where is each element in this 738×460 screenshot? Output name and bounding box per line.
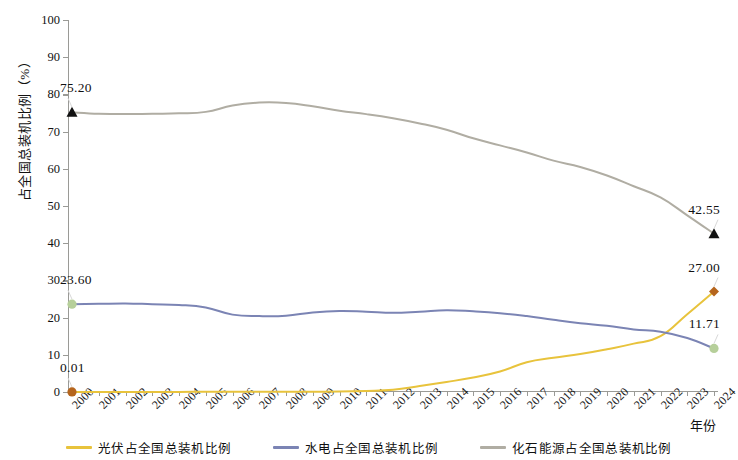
y-tick-label: 20 xyxy=(48,310,61,325)
series-line xyxy=(72,292,714,392)
data-point-label: 27.00 xyxy=(688,260,720,276)
y-tick-label: 80 xyxy=(48,87,61,102)
legend-item[interactable]: 水电占全国总装机比例 xyxy=(273,438,438,457)
y-tick-label: 40 xyxy=(48,236,61,251)
data-point-label: 75.20 xyxy=(60,80,92,96)
y-tick-label: 30 xyxy=(48,273,61,288)
label-leader-line xyxy=(714,334,718,343)
data-point-marker xyxy=(67,300,76,309)
legend-item[interactable]: 化石能源占全国总装机比例 xyxy=(480,438,672,457)
y-tick-label: 50 xyxy=(48,199,61,214)
data-point-marker xyxy=(67,387,76,396)
y-tick-label: 90 xyxy=(48,50,61,65)
legend-label: 光伏占全国总装机比例 xyxy=(98,438,231,457)
data-point-label: 11.71 xyxy=(689,316,720,332)
legend-label: 化石能源占全国总装机比例 xyxy=(512,438,672,457)
legend-label: 水电占全国总装机比例 xyxy=(305,438,438,457)
chart-figure: 占全国总装机比例（%） 0102030405060708090100 20002… xyxy=(0,0,738,460)
label-leader-line xyxy=(68,98,72,107)
data-point-label: 0.01 xyxy=(60,360,85,376)
y-tick-label: 70 xyxy=(48,124,61,139)
y-tick-label: 100 xyxy=(41,13,60,28)
legend-item[interactable]: 光伏占全国总装机比例 xyxy=(66,438,231,457)
data-point-label: 23.60 xyxy=(60,272,92,288)
y-tick-mark xyxy=(63,392,68,393)
data-point-label: 42.55 xyxy=(688,202,720,218)
series-line xyxy=(72,102,714,233)
data-point-marker xyxy=(709,228,720,238)
series-lines xyxy=(68,20,718,392)
legend-swatch-icon xyxy=(480,446,506,449)
chart-legend: 光伏占全国总装机比例水电占全国总装机比例化石能源占全国总装机比例 xyxy=(0,438,738,457)
data-point-marker xyxy=(709,344,718,353)
legend-swatch-icon xyxy=(66,446,92,449)
plot-area: 0102030405060708090100 20002001200220032… xyxy=(68,20,718,392)
y-axis-title: 占全国总装机比例（%） xyxy=(14,8,34,248)
label-leader-line xyxy=(68,290,72,299)
label-leader-line xyxy=(68,378,72,387)
label-leader-line xyxy=(714,278,718,287)
series-line xyxy=(72,303,714,348)
y-tick-label: 10 xyxy=(48,347,61,362)
x-axis-title: 年份 xyxy=(690,415,716,434)
label-leader-line xyxy=(714,220,718,229)
y-tick-label: 60 xyxy=(48,161,61,176)
legend-swatch-icon xyxy=(273,446,299,449)
y-tick-label: 0 xyxy=(54,385,60,400)
